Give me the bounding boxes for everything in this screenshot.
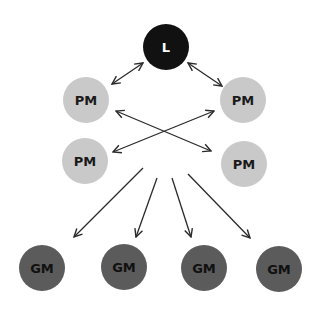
node-label: L [162, 40, 170, 55]
node-gm3: GM [181, 245, 227, 291]
arrow-center-to-gm3 [172, 178, 191, 237]
node-label: GM [192, 261, 216, 276]
node-gm1: GM [19, 245, 65, 291]
arrow-center-to-gm2 [136, 178, 157, 237]
node-label: PM [233, 157, 255, 172]
hierarchy-diagram: LPMPMPMPMGMGMGMGM [0, 0, 317, 316]
node-label: GM [112, 260, 136, 275]
node-label: GM [30, 261, 54, 276]
node-pm2: PM [220, 77, 266, 123]
double-arrow-l-to-pm2 [188, 63, 222, 86]
node-label: GM [267, 262, 291, 277]
node-pm1: PM [63, 77, 109, 123]
node-label: PM [74, 154, 96, 169]
node-l: L [143, 24, 189, 70]
node-pm4: PM [221, 141, 267, 187]
nodes-layer: LPMPMPMPMGMGMGMGM [19, 24, 302, 292]
node-gm2: GM [101, 244, 147, 290]
node-label: PM [232, 93, 254, 108]
node-pm3: PM [62, 138, 108, 184]
node-gm4: GM [256, 246, 302, 292]
double-arrow-l-to-pm1 [112, 63, 143, 84]
node-label: PM [75, 93, 97, 108]
